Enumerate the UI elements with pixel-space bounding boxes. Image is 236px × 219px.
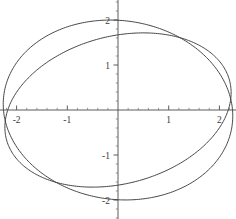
x-tick-label: 1 xyxy=(166,115,171,125)
plot-canvas: -2-112-2-112 xyxy=(0,0,236,219)
y-tick-label: 2 xyxy=(105,16,110,26)
x-tick-label: 2 xyxy=(217,115,222,125)
plot-figure: -2-112-2-112 xyxy=(0,0,236,219)
y-tick-label: 1 xyxy=(105,61,110,71)
axes-group xyxy=(0,0,236,219)
y-tick-label: -2 xyxy=(102,196,110,206)
x-tick-label: -1 xyxy=(63,115,71,125)
x-tick-label: -2 xyxy=(13,115,21,125)
y-tick-label: -1 xyxy=(102,151,110,161)
